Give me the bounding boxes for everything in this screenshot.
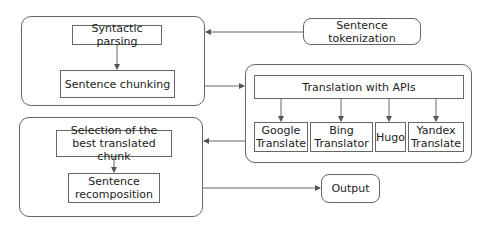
- yandex-translate-node: Yandex Translate: [408, 122, 464, 152]
- translation-with-apis-node: Translation with APIs: [254, 75, 464, 99]
- google-translate-node: Google Translate: [254, 122, 308, 152]
- syntactic-parsing-node: Syntactic parsing: [72, 25, 162, 45]
- bing-translator-node: Bing Translator: [310, 122, 373, 152]
- sentence-recomposition-node: Sentence recomposition: [68, 173, 160, 203]
- sentence-chunking-node: Sentence chunking: [60, 70, 175, 98]
- hugo-node: Hugo: [375, 122, 406, 152]
- best-chunk-selection-node: Selection of the best translated chunk: [56, 130, 172, 157]
- sentence-tokenization-node: Sentence tokenization: [303, 18, 421, 45]
- output-node: Output: [321, 174, 380, 203]
